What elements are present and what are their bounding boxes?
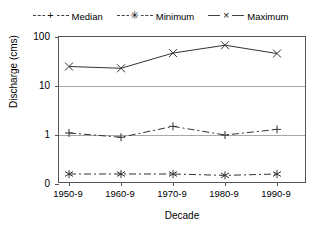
data-point-median-2 — [169, 122, 177, 130]
y-tick-label: 0 — [44, 178, 50, 189]
series-layer — [59, 37, 307, 184]
x-axis-tick-labels: 1950-9 1960-9 1970-9 1980-9 1990-9 — [58, 188, 306, 202]
x-tick-label: 1990-9 — [261, 188, 291, 199]
legend-key-median: + — [33, 10, 69, 22]
plus-marker-icon: + — [45, 8, 57, 22]
data-point-median-1 — [117, 133, 125, 141]
y-tick-label: 1 — [44, 129, 50, 140]
x-tick-label: 1960-9 — [105, 188, 135, 199]
y-tick-label: 100 — [33, 31, 50, 42]
data-point-median-0 — [65, 129, 73, 137]
chart-legend: + Median ✳ Minimum × Maximum — [0, 8, 321, 24]
x-tick-label: 1970-9 — [157, 188, 187, 199]
data-point-median-4 — [273, 125, 281, 133]
x-marker-icon: × — [220, 8, 232, 22]
chart-container: + Median ✳ Minimum × Maximum 100 10 1 0 … — [0, 0, 321, 234]
series-line-maximum — [69, 45, 277, 68]
x-tick-label: 1950-9 — [53, 188, 83, 199]
y-tick-mark — [55, 184, 59, 185]
legend-entry-maximum: × Maximum — [208, 9, 288, 23]
x-axis-title: Decade — [58, 210, 306, 221]
legend-entry-minimum: ✳ Minimum — [117, 9, 195, 23]
legend-label-maximum: Maximum — [247, 11, 288, 22]
plot-area — [58, 36, 306, 183]
x-tick-label: 1980-9 — [209, 188, 239, 199]
legend-entry-median: + Median — [33, 9, 103, 23]
y-tick-label: 10 — [39, 80, 50, 91]
legend-key-minimum: ✳ — [117, 10, 153, 22]
legend-key-maximum: × — [208, 10, 244, 22]
asterisk-marker-icon: ✳ — [129, 8, 141, 22]
y-axis-title: Discharge (cms) — [8, 12, 19, 132]
data-point-median-3 — [221, 131, 229, 139]
legend-label-median: Median — [72, 11, 103, 22]
legend-label-minimum: Minimum — [156, 11, 195, 22]
